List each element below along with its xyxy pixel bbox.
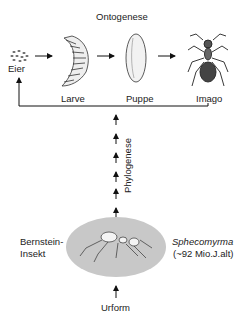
species-age: (~92 Mio.J.alt) <box>173 248 233 259</box>
cycle-return-arrow <box>19 78 208 106</box>
origin-label: Urform <box>101 302 130 313</box>
eggs-icon <box>10 50 28 62</box>
species-name: Sphecomyrma <box>172 236 233 247</box>
stage-label-pupa: Puppe <box>126 93 153 104</box>
ant-imago-icon <box>188 34 228 86</box>
fossil-label-line1: Bernstein- <box>20 236 63 247</box>
stage-label-imago: Imago <box>196 93 222 104</box>
phylogeny-label: Phylogenese <box>122 138 133 193</box>
fossil-label-line2: Insekt <box>20 248 45 259</box>
stage-label-eggs: Eier <box>8 63 25 74</box>
stage-label-larva: Larve <box>61 93 85 104</box>
pupa-icon <box>126 34 146 82</box>
larva-icon <box>62 36 88 86</box>
ontogeny-title: Ontogenese <box>96 11 148 22</box>
